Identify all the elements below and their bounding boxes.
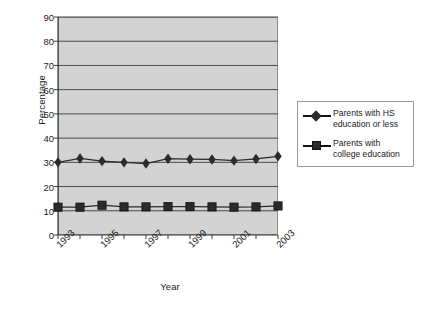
- y-tick-label: 50: [24, 108, 54, 119]
- diamond-marker-icon: [303, 109, 331, 123]
- chart-legend: Parents with HS education or less Parent…: [297, 101, 414, 167]
- y-tick-label: 60: [24, 84, 54, 95]
- y-tick-label: 0: [24, 230, 54, 241]
- legend-label-hs-line1: Parents with HS: [333, 108, 395, 118]
- y-tick-label: 10: [24, 205, 54, 216]
- y-tick-label: 40: [24, 133, 54, 144]
- y-tick-label: 90: [24, 12, 54, 23]
- legend-label-hs-line2: education or less: [333, 119, 398, 129]
- legend-label-hs: Parents with HS education or less: [331, 108, 398, 129]
- y-tick-label: 80: [24, 36, 54, 47]
- legend-label-college-line2: college education: [333, 149, 400, 159]
- legend-label-college: Parents with college education: [331, 138, 400, 159]
- y-tick-label: 70: [24, 60, 54, 71]
- y-tick-label: 30: [24, 157, 54, 168]
- legend-item-college: Parents with college education: [303, 138, 408, 159]
- legend-label-college-line1: Parents with: [333, 138, 380, 148]
- x-axis-title: Year: [60, 281, 280, 292]
- legend-item-hs: Parents with HS education or less: [303, 108, 408, 129]
- square-marker-icon: [303, 139, 331, 153]
- y-tick-label: 20: [24, 181, 54, 192]
- chart-figure: Percentage 0102030405060708090 199319951…: [0, 0, 422, 309]
